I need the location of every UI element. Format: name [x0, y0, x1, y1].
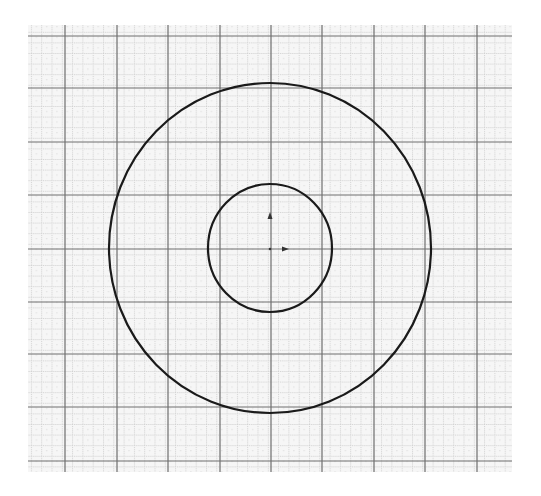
origin-point-icon [269, 248, 272, 251]
drawing-canvas[interactable] [0, 0, 541, 496]
